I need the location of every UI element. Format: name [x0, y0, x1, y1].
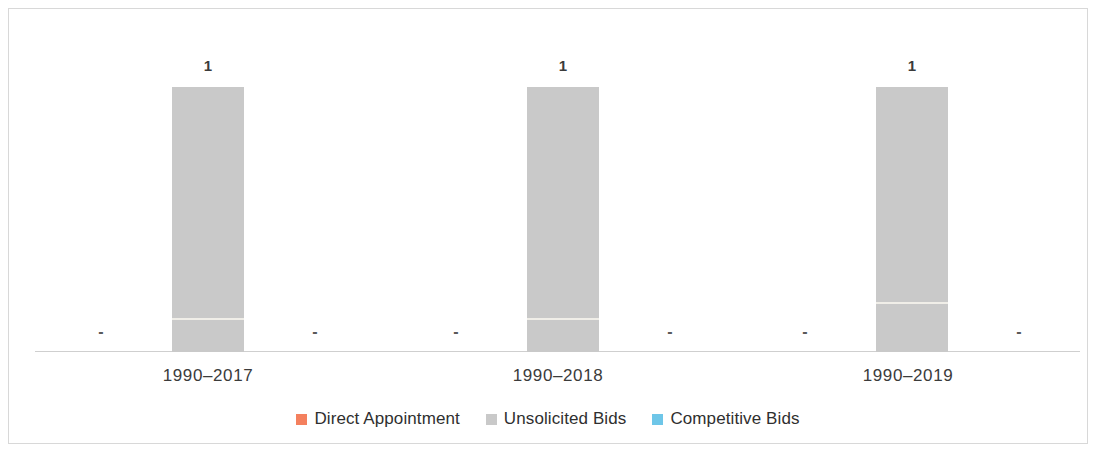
bar-segment-divider	[527, 318, 599, 320]
bar-slot-unsolicited-bids[interactable]: 1	[876, 20, 948, 352]
null-value-dash: -	[420, 324, 492, 340]
chart-figure: - 1 - - 1 - -	[0, 0, 1096, 452]
bar-segment-divider	[172, 318, 244, 320]
legend-item-unsolicited-bids[interactable]: Unsolicited Bids	[486, 409, 627, 429]
bar-value-label: 1	[172, 57, 244, 74]
x-tick-label-2: 1990–2018	[438, 366, 678, 386]
bar-slot-competitive-bids: -	[279, 20, 351, 352]
chart-legend: Direct Appointment Unsolicited Bids Comp…	[0, 409, 1096, 429]
bar-slot-competitive-bids: -	[634, 20, 706, 352]
legend-label: Competitive Bids	[670, 409, 799, 429]
null-value-dash: -	[65, 324, 137, 340]
legend-item-direct-appointment[interactable]: Direct Appointment	[296, 409, 459, 429]
bar-value-label: 1	[527, 57, 599, 74]
legend-swatch-icon	[296, 414, 307, 425]
bar-unsolicited-bids[interactable]	[876, 87, 948, 352]
bar-group-1990-2018: - 1 -	[410, 20, 750, 352]
legend-label: Unsolicited Bids	[504, 409, 627, 429]
legend-swatch-icon	[486, 414, 497, 425]
bar-group-1990-2019: - 1 -	[759, 20, 1096, 352]
legend-swatch-icon	[652, 414, 663, 425]
legend-label: Direct Appointment	[314, 409, 459, 429]
bar-unsolicited-bids[interactable]	[172, 87, 244, 352]
legend-item-competitive-bids[interactable]: Competitive Bids	[652, 409, 799, 429]
null-value-dash: -	[769, 324, 841, 340]
bar-slot-unsolicited-bids[interactable]: 1	[172, 20, 244, 352]
bar-group-1990-2017: - 1 -	[55, 20, 395, 352]
bar-slot-unsolicited-bids[interactable]: 1	[527, 20, 599, 352]
bar-unsolicited-bids[interactable]	[527, 87, 599, 352]
null-value-dash: -	[634, 324, 706, 340]
bar-slot-direct-appointment: -	[769, 20, 841, 352]
x-tick-label-1: 1990–2017	[88, 366, 328, 386]
x-tick-label-3: 1990–2019	[788, 366, 1028, 386]
bar-value-label: 1	[876, 57, 948, 74]
bar-segment-divider	[876, 302, 948, 304]
bar-slot-direct-appointment: -	[420, 20, 492, 352]
bar-slot-competitive-bids: -	[983, 20, 1055, 352]
null-value-dash: -	[279, 324, 351, 340]
null-value-dash: -	[983, 324, 1055, 340]
bar-slot-direct-appointment: -	[65, 20, 137, 352]
